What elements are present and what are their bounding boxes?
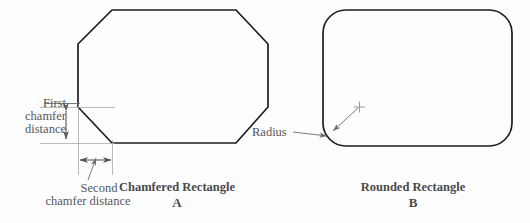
radius-center-cross-icon [354, 102, 365, 113]
first-chamfer-line-1: First [43, 96, 66, 110]
rounded-rectangle-caption: Rounded Rectangle [345, 181, 481, 194]
first-chamfer-line-3: distance [25, 122, 66, 136]
first-chamfer-line-2: chamfer [25, 109, 66, 123]
rounded-rectangle-outline [323, 10, 512, 146]
figure-container: First chamfer distance Second chamfer di… [0, 0, 530, 223]
leader-line-second-chamfer [88, 158, 96, 180]
radius-dimension-arrow [333, 108, 358, 131]
first-chamfer-distance-label: First chamfer distance [4, 97, 66, 136]
radius-label: Radius [252, 126, 287, 139]
chamfered-rectangle-outline [78, 10, 268, 143]
chamfered-rectangle-caption: Chamfered Rectangle [118, 181, 236, 194]
chamfered-rectangle-letter: A [118, 196, 236, 210]
rounded-rectangle-letter: B [345, 196, 481, 210]
leader-line-radius [293, 132, 327, 136]
